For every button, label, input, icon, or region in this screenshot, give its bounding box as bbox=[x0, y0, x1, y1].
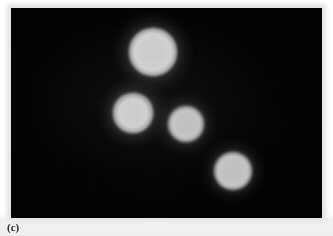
figure-panel: (c) bbox=[0, 0, 333, 236]
cell-top bbox=[129, 28, 177, 76]
cell-center bbox=[168, 106, 204, 142]
micrograph-image bbox=[11, 8, 322, 218]
cell-core bbox=[217, 155, 248, 186]
cell-bottom-right bbox=[214, 152, 252, 190]
panel-label: (c) bbox=[7, 221, 19, 234]
cell-core bbox=[133, 32, 172, 71]
cell-middle-left bbox=[113, 93, 153, 133]
cell-core bbox=[171, 109, 201, 139]
